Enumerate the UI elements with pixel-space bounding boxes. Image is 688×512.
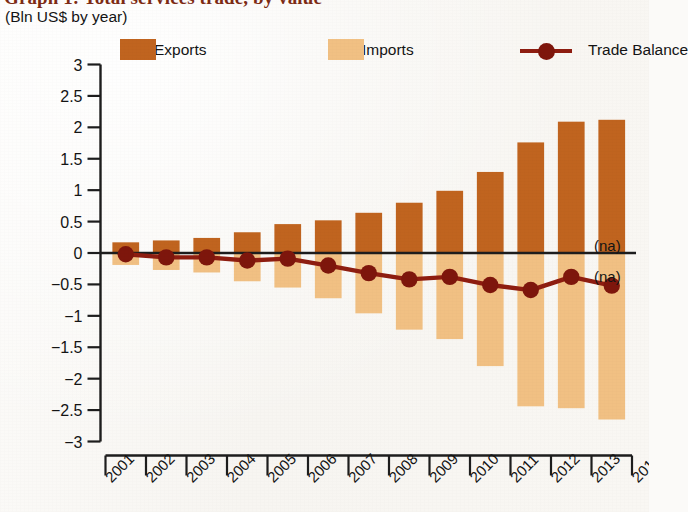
bar-exports bbox=[598, 120, 625, 253]
data-point-trade-balance bbox=[118, 246, 134, 262]
y-axis-tick-label: −3 bbox=[64, 434, 82, 451]
data-point-trade-balance bbox=[563, 269, 579, 285]
y-axis-tick-label: −1.5 bbox=[51, 339, 83, 356]
data-point-trade-balance bbox=[442, 269, 458, 285]
data-point-trade-balance bbox=[199, 249, 215, 265]
data-point-trade-balance bbox=[239, 252, 255, 268]
y-axis-tick-label: −0.5 bbox=[51, 276, 83, 293]
data-point-trade-balance bbox=[523, 282, 539, 298]
bar-imports bbox=[477, 253, 504, 366]
bar-imports bbox=[436, 253, 463, 339]
data-point-trade-balance bbox=[401, 271, 417, 287]
y-axis-tick-label: 2.5 bbox=[60, 88, 82, 105]
data-point-trade-balance bbox=[320, 257, 336, 273]
y-axis-tick-label: 0.5 bbox=[60, 214, 82, 231]
bar-exports bbox=[234, 232, 261, 253]
y-axis-tick-label: −1 bbox=[64, 308, 82, 325]
bar-imports bbox=[396, 253, 423, 330]
y-axis-tick-label: 1.5 bbox=[60, 151, 82, 168]
data-point-trade-balance bbox=[280, 250, 296, 266]
bar-exports bbox=[396, 203, 423, 253]
y-axis-tick-label: 1 bbox=[74, 182, 83, 199]
data-point-trade-balance bbox=[158, 249, 174, 265]
bar-exports bbox=[315, 220, 342, 253]
data-point-trade-balance bbox=[482, 277, 498, 293]
data-point-trade-balance bbox=[361, 265, 377, 281]
annotation-na: (na) bbox=[594, 237, 621, 254]
y-axis-tick-label: 0 bbox=[74, 245, 83, 262]
bar-exports bbox=[436, 191, 463, 253]
bar-exports bbox=[477, 172, 504, 253]
bar-exports bbox=[355, 213, 382, 253]
bar-imports bbox=[517, 253, 544, 406]
y-axis-tick-label: 2 bbox=[74, 119, 83, 136]
bar-exports bbox=[517, 142, 544, 253]
y-axis-tick-label: −2 bbox=[64, 371, 82, 388]
y-axis-tick-label: −2.5 bbox=[51, 402, 83, 419]
bar-imports bbox=[355, 253, 382, 313]
annotation-na: (na) bbox=[594, 268, 621, 285]
y-axis-tick-label: 3 bbox=[74, 57, 83, 74]
bar-exports bbox=[274, 224, 301, 253]
bar-exports bbox=[558, 122, 585, 253]
